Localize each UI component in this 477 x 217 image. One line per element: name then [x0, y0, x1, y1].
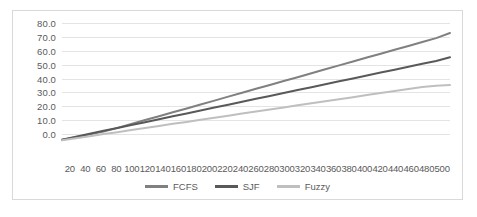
chart-legend: FCFSSJFFuzzy: [13, 181, 462, 192]
x-axis-tick-label: 380: [341, 163, 357, 174]
x-axis-tick-label: 40: [78, 163, 94, 174]
x-axis-tick-label: 340: [310, 163, 326, 174]
x-axis-tick-label: 160: [171, 163, 187, 174]
x-axis-tick-label: 360: [326, 163, 342, 174]
x-axis-tick-label: 480: [419, 163, 435, 174]
y-axis-tick-label: 60.0: [37, 45, 56, 56]
x-axis-tick-label: 500: [434, 163, 450, 174]
x-axis-tick-label: 180: [186, 163, 202, 174]
legend-line-icon: [215, 185, 238, 188]
legend-line-icon: [145, 185, 168, 188]
legend-item[interactable]: SJF: [215, 181, 260, 192]
x-axis-tick-label: 100: [124, 163, 140, 174]
series-line-sjf: [62, 57, 450, 139]
x-axis-tick-label: 80: [109, 163, 125, 174]
legend-item[interactable]: Fuzzy: [277, 181, 330, 192]
series-line-fcfs: [62, 33, 450, 140]
y-axis-tick-label: 30.0: [37, 87, 56, 98]
y-axis-tick-label: 10.0: [37, 115, 56, 126]
series-line-fuzzy: [62, 85, 450, 140]
y-axis: 0.010.020.030.040.050.060.070.080.0: [13, 11, 59, 161]
y-axis-tick-label: 50.0: [37, 59, 56, 70]
legend-item[interactable]: FCFS: [145, 181, 198, 192]
x-axis-tick-label: 400: [357, 163, 373, 174]
y-axis-tick-label: 80.0: [37, 18, 56, 29]
plot-area: [62, 23, 450, 148]
x-axis-tick-label: 20: [62, 163, 78, 174]
x-axis-tick-label: 120: [140, 163, 156, 174]
x-axis-tick-label: 280: [264, 163, 280, 174]
x-axis-tick-label: 320: [295, 163, 311, 174]
y-axis-tick-label: 0.0: [42, 129, 56, 140]
x-axis-tick-label: 240: [233, 163, 249, 174]
legend-label: Fuzzy: [305, 181, 330, 192]
x-axis-tick-label: 60: [93, 163, 109, 174]
legend-label: SJF: [243, 181, 260, 192]
series-lines: [62, 23, 450, 148]
x-axis-tick-label: 460: [403, 163, 419, 174]
x-axis-tick-label: 420: [372, 163, 388, 174]
x-axis-tick-label: 200: [202, 163, 218, 174]
legend-line-icon: [277, 185, 300, 188]
y-axis-tick-label: 40.0: [37, 73, 56, 84]
x-axis-tick-label: 440: [388, 163, 404, 174]
x-axis-tick-label: 220: [217, 163, 233, 174]
legend-label: FCFS: [173, 181, 198, 192]
x-axis-tick-label: 300: [279, 163, 295, 174]
y-axis-tick-label: 70.0: [37, 31, 56, 42]
y-axis-tick-label: 20.0: [37, 101, 56, 112]
x-axis-tick-label: 140: [155, 163, 171, 174]
chart-container: 0.010.020.030.040.050.060.070.080.0 2040…: [12, 10, 463, 200]
x-axis: 2040608010012014016018020022024026028030…: [62, 161, 450, 175]
x-axis-tick-label: 260: [248, 163, 264, 174]
